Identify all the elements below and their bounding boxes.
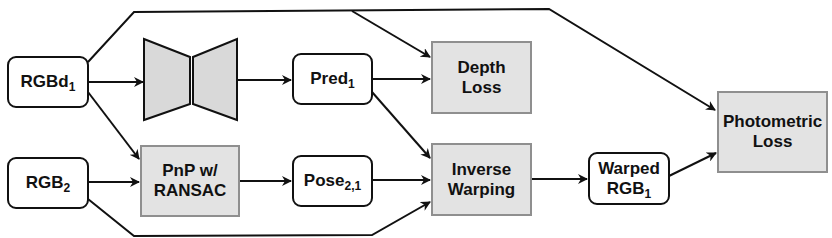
rgb2-label: RGB bbox=[26, 173, 64, 192]
node-rgb2: RGB2 bbox=[7, 157, 89, 209]
warped-subscript: 1 bbox=[645, 187, 652, 201]
inverse-warping-line1: Inverse bbox=[452, 160, 512, 180]
decoder-icon bbox=[193, 39, 237, 120]
photometric-loss-line1: Photometric bbox=[723, 112, 822, 132]
pred1-label: Pred bbox=[310, 69, 348, 88]
node-pose21: Pose2,1 bbox=[292, 155, 373, 207]
warped-label-base: RGB bbox=[607, 179, 645, 198]
node-pnp-ransac: PnP w/ RANSAC bbox=[140, 145, 240, 217]
pose-subscript: 2,1 bbox=[344, 179, 361, 193]
node-rgbd1: RGBd1 bbox=[7, 56, 89, 108]
pnp-label-line1: PnP w/ bbox=[162, 161, 217, 181]
warped-label-line1: Warped bbox=[598, 159, 660, 179]
connectors bbox=[0, 0, 832, 238]
node-pred1: Pred1 bbox=[292, 53, 373, 105]
node-photometric-loss: Photometric Loss bbox=[717, 91, 828, 173]
encoder-icon bbox=[144, 39, 190, 120]
photometric-loss-line2: Loss bbox=[753, 132, 793, 152]
pred1-subscript: 1 bbox=[348, 77, 355, 91]
rgbd1-label: RGBd bbox=[21, 72, 69, 91]
inverse-warping-line2: Warping bbox=[448, 180, 515, 200]
rgb2-subscript: 2 bbox=[64, 181, 71, 195]
node-inverse-warping: Inverse Warping bbox=[431, 143, 532, 216]
rgbd1-subscript: 1 bbox=[69, 80, 76, 94]
pnp-label-line2: RANSAC bbox=[154, 181, 227, 201]
pose-label: Pose bbox=[304, 171, 345, 190]
node-depth-loss: Depth Loss bbox=[431, 41, 532, 114]
depth-loss-line1: Depth bbox=[457, 58, 505, 78]
training-pipeline-diagram: RGBd1 RGB2 PnP w/ RANSAC Pred1 Pose2,1 D… bbox=[0, 0, 832, 238]
node-warped-rgb1: Warped RGB1 bbox=[588, 152, 670, 205]
depth-loss-line2: Loss bbox=[462, 78, 502, 98]
